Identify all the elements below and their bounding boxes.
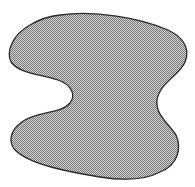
blob-figure xyxy=(0,0,195,187)
